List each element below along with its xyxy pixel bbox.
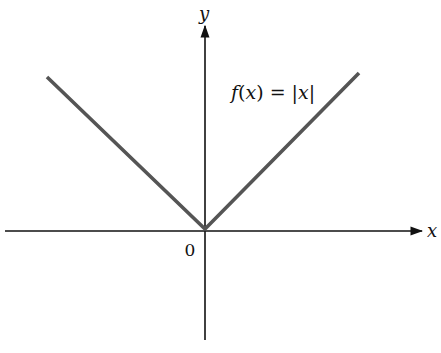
function-label: f(x) = |x|	[229, 81, 315, 104]
origin-label: 0	[185, 240, 196, 260]
y-axis-label: y	[198, 3, 210, 24]
x-axis-label: x	[427, 220, 437, 241]
absolute-value-graph: y x 0 f(x) = |x|	[0, 0, 441, 353]
